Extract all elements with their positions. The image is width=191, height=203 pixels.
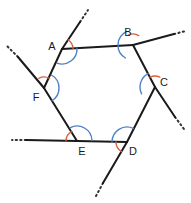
interior-angle-arc-A	[57, 48, 77, 64]
vertex-label-C: C	[160, 76, 168, 88]
ray-from-C-downright-dotted	[175, 117, 184, 129]
hexagon-edge-CD	[127, 87, 155, 142]
ray-from-F-upleft-solid	[18, 57, 44, 88]
interior-angle-arc-C	[140, 74, 148, 94]
vertex-label-B: B	[124, 26, 131, 38]
hexagon-edge-BC	[133, 45, 155, 87]
exterior-angle-arc-F	[39, 77, 50, 78]
exterior-angle-arc-D	[116, 142, 122, 152]
ray-from-E-leftward-solid	[26, 140, 77, 141]
vertex-label-F: F	[33, 91, 40, 103]
vertex-labels: ABCDEF	[33, 26, 168, 157]
hexagon-edge-DE	[77, 141, 127, 142]
ray-from-B-rightward-dotted	[174, 31, 186, 34]
vertex-label-E: E	[78, 145, 85, 157]
interior-angle-arc-F	[52, 75, 59, 101]
geometry-figure: ABCDEF	[0, 0, 191, 203]
hexagon-edge-FA	[44, 49, 62, 88]
ray-from-A-upward-solid	[62, 22, 80, 49]
ray-from-F-upleft-dotted	[6, 45, 18, 57]
hexagon-edge-EF	[44, 88, 77, 141]
vertex-label-D: D	[129, 145, 137, 157]
ray-from-C-downright-solid	[155, 87, 175, 117]
vertex-label-A: A	[48, 40, 56, 52]
ray-from-A-upward-dotted	[80, 10, 88, 22]
hexagon-exterior-angle-diagram: ABCDEF	[0, 0, 191, 203]
ray-from-D-downleft-dotted	[96, 183, 103, 196]
ray-from-D-downleft-solid	[103, 142, 127, 183]
exterior-angle-arc-A	[68, 40, 73, 49]
hexagon-edges	[44, 45, 155, 142]
exterior-angle-arc-C	[150, 76, 160, 77]
